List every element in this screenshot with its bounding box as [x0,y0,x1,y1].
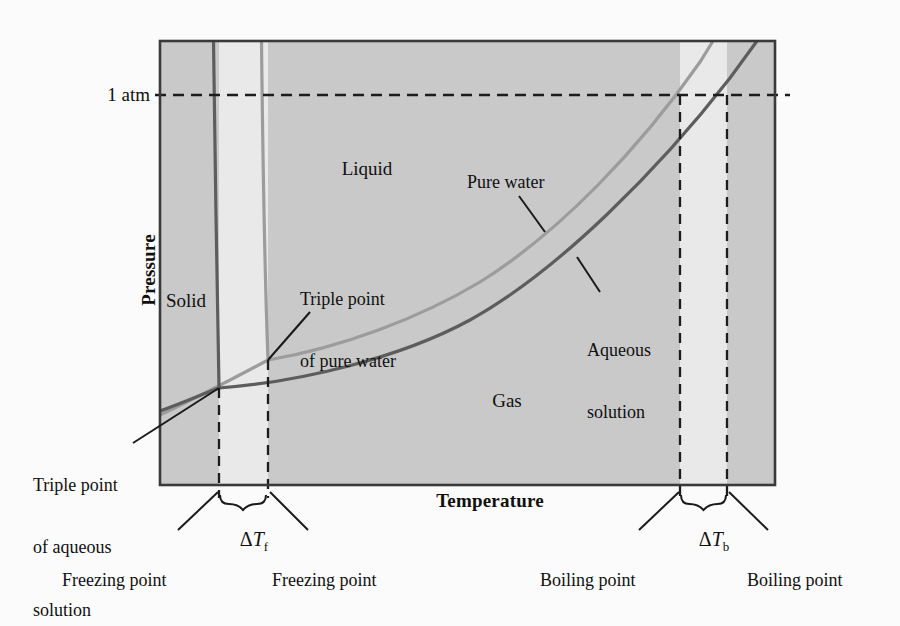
delta-tf-subscript: f [264,539,268,554]
delta-tb-label: ΔTb [674,505,734,577]
region-label-liquid: Liquid [312,158,422,180]
delta-tf-label: ΔTf [214,505,274,577]
annotation-triple-point-pure-water-line1: Triple point [300,289,396,310]
y-axis-tick-label-1atm: 1 atm [40,84,150,106]
caption-boiling-point-pure-water: Boiling point of pure water [540,528,636,626]
annotation-triple-point-pure-water-line2: of pure water [300,351,396,372]
delta-tb-subscript: b [723,539,730,554]
freezing-point-pure-water-leader [270,492,308,530]
delta-tb-variable: T [712,528,723,550]
y-axis-title: Pressure [138,210,160,330]
caption-freezing-point-aqueous-solution-line1: Freezing point [62,570,166,591]
delta-tb-symbol: Δ [699,528,712,550]
delta-tf-band [219,41,268,485]
x-axis-title: Temperature [395,490,585,512]
phase-diagram-figure: 1 atm Pressure Temperature Solid Liquid … [0,0,900,626]
curve-label-aqueous-solution-line1: Aqueous [587,340,651,361]
caption-boiling-point-aqueous-solution: Boiling point of aqueous solution [747,528,843,626]
boiling-point-pure-water-leader [639,492,679,530]
region-label-gas: Gas [462,390,552,412]
annotation-triple-point-aqueous-solution-line1: Triple point [33,475,118,496]
boiling-point-solution-leader [729,492,768,530]
delta-tb-band [680,41,727,485]
caption-freezing-point-aqueous-solution: Freezing point of aqueous solution [62,528,166,626]
delta-tf-variable: T [253,528,264,550]
caption-freezing-point-pure-water-line1: Freezing point [272,570,376,591]
freezing-point-solution-leader [178,492,218,530]
caption-boiling-point-pure-water-line1: Boiling point [540,570,636,591]
annotation-triple-point-pure-water: Triple point of pure water [300,247,396,414]
caption-boiling-point-aqueous-solution-line1: Boiling point [747,570,843,591]
region-label-solid: Solid [166,290,206,312]
curve-label-pure-water: Pure water [467,172,544,193]
delta-tf-symbol: Δ [240,528,253,550]
curve-label-aqueous-solution: Aqueous solution [587,298,651,465]
curve-label-aqueous-solution-line2: solution [587,402,651,423]
caption-freezing-point-pure-water: Freezing point of pure water [272,528,376,626]
